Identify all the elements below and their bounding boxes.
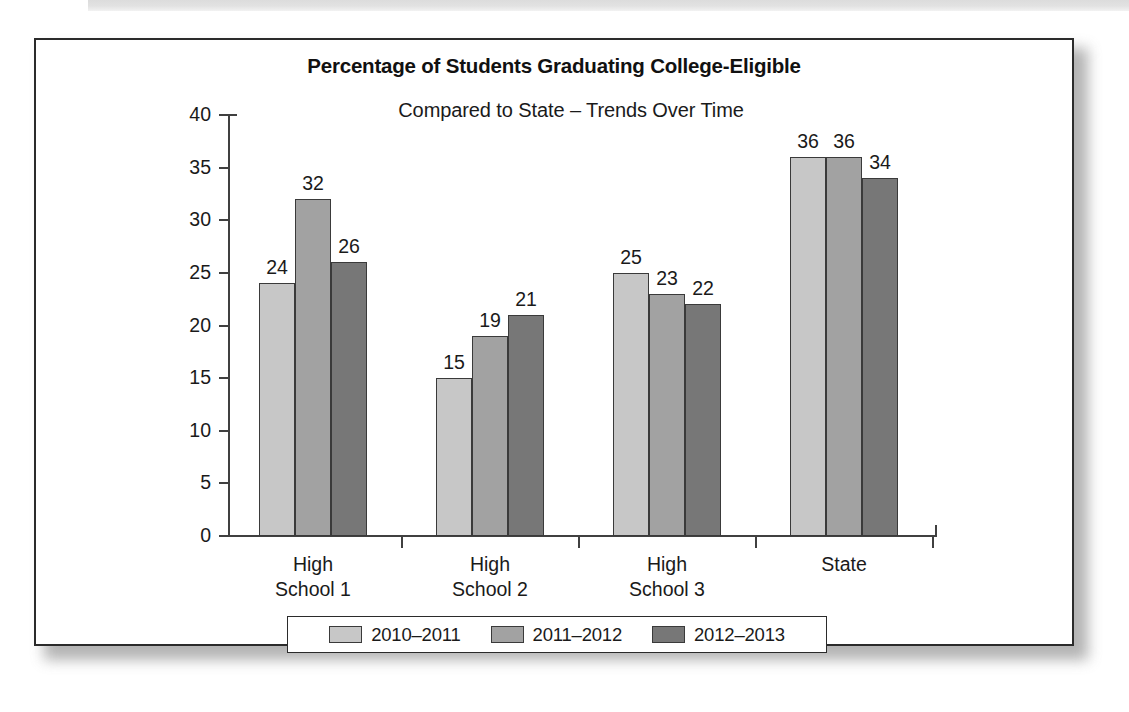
bar-value-label: 22: [677, 277, 729, 300]
y-tick-label-10: 10: [169, 419, 211, 442]
bar: [685, 304, 721, 536]
legend-swatch-icon: [491, 626, 524, 643]
bar: [331, 262, 367, 536]
y-axis-line: [228, 114, 230, 535]
y-tick-15: [219, 377, 228, 379]
x-axis-end-tick: [935, 525, 937, 537]
bar-value-label: 15: [428, 351, 480, 374]
bar: [613, 273, 649, 536]
x-tick-1: [578, 537, 580, 548]
bar-value-label: 32: [287, 172, 339, 195]
category-label-line: School 3: [577, 577, 757, 602]
bar-value-label: 19: [464, 309, 516, 332]
legend-item: 2012–2013: [652, 624, 785, 646]
y-tick-5: [219, 482, 228, 484]
y-tick-35: [219, 167, 228, 169]
legend-swatch-icon: [329, 626, 362, 643]
y-tick-label-5: 5: [169, 471, 211, 494]
legend-item: 2010–2011: [329, 624, 460, 646]
bar-value-label: 21: [500, 288, 552, 311]
category-label-line: High: [577, 552, 757, 577]
y-tick-25: [219, 272, 228, 274]
x-tick-0: [401, 537, 403, 548]
bar-value-label: 36: [818, 130, 870, 153]
bar: [259, 283, 295, 536]
category-label-line: School 1: [223, 577, 403, 602]
bar: [862, 178, 898, 536]
plot-area: 0510152025303540 24322615192125232236363…: [36, 40, 1072, 644]
y-tick-label-25: 25: [169, 261, 211, 284]
y-tick-20: [219, 325, 228, 327]
scan-artifact-band: [88, 0, 1129, 11]
legend-label: 2012–2013: [694, 624, 785, 646]
chart-figure: Percentage of Students Graduating Colleg…: [34, 38, 1074, 646]
x-tick-3: [932, 537, 934, 548]
category-label-line: High: [400, 552, 580, 577]
category-label-line: School 2: [400, 577, 580, 602]
bar: [826, 157, 862, 536]
legend-item: 2011–2012: [491, 624, 622, 646]
category-label: HighSchool 2: [400, 552, 580, 602]
y-tick-label-35: 35: [169, 156, 211, 179]
y-tick-label-40: 40: [169, 103, 211, 126]
bar: [508, 315, 544, 536]
legend-label: 2010–2011: [371, 624, 460, 646]
y-tick-30: [219, 219, 228, 221]
y-tick-label-20: 20: [169, 314, 211, 337]
y-tick-10: [219, 430, 228, 432]
bar-value-label: 34: [854, 151, 906, 174]
category-label-line: State: [754, 552, 934, 577]
x-tick-2: [755, 537, 757, 548]
y-axis-top-tick: [228, 114, 237, 116]
y-tick-label-30: 30: [169, 208, 211, 231]
category-label: State: [754, 552, 934, 577]
bar: [649, 294, 685, 536]
y-tick-label-15: 15: [169, 366, 211, 389]
y-tick-0: [219, 535, 228, 537]
bar: [790, 157, 826, 536]
bar-value-label: 26: [323, 235, 375, 258]
chart-legend: 2010–20112011–20122012–2013: [287, 616, 827, 653]
category-label: HighSchool 1: [223, 552, 403, 602]
legend-label: 2011–2012: [533, 624, 622, 646]
category-label: HighSchool 3: [577, 552, 757, 602]
category-label-line: High: [223, 552, 403, 577]
bar-value-label: 24: [251, 256, 303, 279]
bar-value-label: 25: [605, 246, 657, 269]
legend-swatch-icon: [652, 626, 685, 643]
y-tick-label-0: 0: [169, 524, 211, 547]
y-tick-40: [219, 114, 228, 116]
bar: [436, 378, 472, 536]
